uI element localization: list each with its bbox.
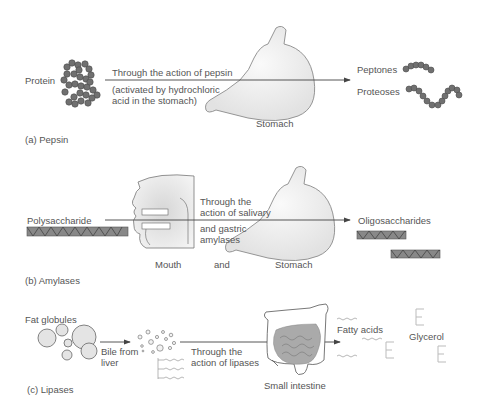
polysaccharide-chain-icon: [27, 227, 128, 236]
triglyceride-icon: [158, 358, 184, 379]
organ-label: Stomach: [256, 118, 294, 129]
panel-caption: (a) Pepsin: [25, 134, 68, 145]
fat-globules-icon: [38, 324, 97, 360]
action-text-line: acid in the stomach): [112, 95, 197, 106]
substrate-label: Fat globules: [25, 314, 77, 325]
organ-label: Mouth: [155, 259, 181, 270]
panel-caption: (c) Lipases: [27, 384, 73, 395]
connector-label: and: [214, 259, 230, 270]
mouth-cross-section-icon: [132, 175, 194, 248]
action-text-line: Through the: [191, 346, 242, 357]
action-text-line: Through the action of pepsin: [112, 67, 232, 78]
action-text-line: action of salivary: [200, 207, 271, 218]
organ-label: Small intestine: [264, 380, 326, 391]
panel-caption: (b) Amylases: [25, 275, 80, 286]
oligosaccharide-chain-icon: [357, 231, 440, 258]
substrate-label: Polysaccharide: [27, 215, 91, 226]
peptones-chain-icon: [403, 62, 434, 73]
proteoses-chain-icon: [406, 85, 462, 108]
product-label: Oligosaccharides: [358, 215, 431, 226]
small-intestine-icon: [264, 304, 328, 375]
action-text-line: amylases: [200, 234, 240, 245]
action-text-line: and gastric: [200, 223, 246, 234]
product-label: Fatty acids: [337, 324, 383, 335]
emulsified-droplets-icon: [138, 330, 176, 353]
protein-bead-cluster-icon: [61, 60, 100, 107]
product-label: Peptones: [357, 64, 397, 75]
step-text-line: Bile from: [101, 346, 138, 357]
product-label: Glycerol: [409, 331, 444, 342]
substrate-label: Protein: [25, 75, 55, 86]
action-text-line: Through the: [200, 196, 251, 207]
product-label: Proteoses: [357, 86, 400, 97]
organ-label: Stomach: [275, 259, 313, 270]
action-text-line: action of lipases: [191, 357, 259, 368]
step-text-line: liver: [101, 357, 118, 368]
action-text-line: (activated by hydrochloric: [112, 84, 220, 95]
